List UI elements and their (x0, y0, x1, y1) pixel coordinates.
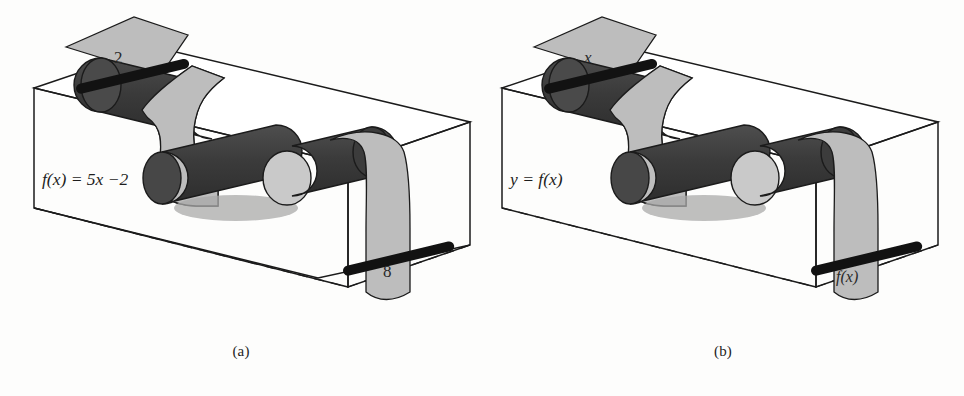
input-value-label-a: 2 (114, 48, 123, 67)
lower-roller-flange-b (731, 151, 779, 205)
panel-a: f(x) = 5x −2 (0, 0, 482, 396)
lower-roller-flange-a (263, 151, 311, 205)
figure-root: f(x) = 5x −2 (0, 0, 964, 396)
panel-a-caption: (a) (0, 343, 482, 360)
panel-b: y = f(x) x (482, 0, 964, 396)
panel-b-caption: (b) (482, 343, 964, 360)
input-value-label-b: x (583, 48, 592, 67)
output-value-label-a: 8 (383, 262, 392, 281)
panel-a-illustration: f(x) = 5x −2 (0, 0, 482, 396)
lower-roller-cap-a (143, 152, 181, 204)
panel-b-illustration: y = f(x) x (482, 0, 964, 396)
rule-label-a: f(x) = 5x −2 (42, 169, 129, 189)
output-value-label-b: f(x) (836, 268, 858, 286)
lower-roller-cap-b (611, 152, 649, 204)
rule-label-b: y = f(x) (508, 169, 563, 189)
